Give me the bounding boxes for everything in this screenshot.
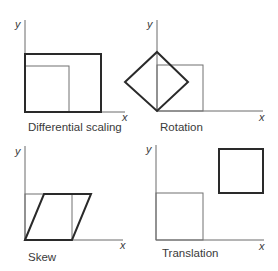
panel-translation: y x Translation — [145, 143, 265, 259]
caption-differential-scaling: Differential scaling — [28, 121, 122, 133]
x-axis-label: x — [258, 111, 265, 123]
panel-differential-scaling: y x Differential scaling — [14, 18, 128, 133]
x-axis-label: x — [258, 240, 265, 252]
transformations-diagram: y x Differential scaling y x Rotation y … — [0, 0, 278, 271]
skewed-parallelogram — [25, 194, 91, 240]
original-square — [25, 194, 72, 240]
x-axis-label: x — [119, 239, 126, 251]
y-axis-label: y — [14, 145, 22, 157]
caption-rotation: Rotation — [160, 121, 203, 133]
y-axis-label: y — [14, 18, 22, 30]
caption-skew: Skew — [28, 251, 57, 263]
translated-square — [219, 149, 263, 193]
original-square — [25, 66, 69, 112]
y-axis-label: y — [145, 143, 153, 155]
panel-rotation: y x Rotation — [125, 18, 265, 133]
original-square — [156, 193, 203, 240]
panel-skew: y x Skew — [14, 145, 126, 263]
caption-translation: Translation — [162, 247, 218, 259]
y-axis-label: y — [146, 18, 154, 30]
x-axis-label: x — [121, 111, 128, 123]
scaled-rectangle — [25, 54, 101, 112]
